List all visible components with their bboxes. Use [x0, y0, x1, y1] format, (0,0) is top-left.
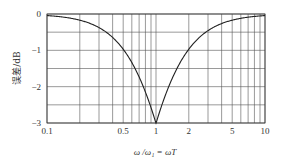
x-tick-label: 2	[187, 126, 192, 136]
x-tick-label: 5	[230, 126, 235, 136]
error-chart: 0−1−2−3 0.10.512510 误差/dB ω /ω₁ = ωT	[0, 0, 281, 160]
y-axis-label: 误差/dB	[11, 51, 22, 85]
y-tick-label: −1	[31, 45, 41, 55]
y-tick-label: −2	[31, 82, 41, 92]
grid	[47, 14, 265, 123]
y-tick-label: 0	[37, 9, 42, 19]
x-tick-label: 10	[261, 126, 271, 136]
x-axis-label: ω /ω₁ = ωT	[134, 147, 178, 157]
x-tick-label: 0.1	[41, 126, 52, 136]
x-tick-labels: 0.10.512510	[41, 126, 270, 136]
x-tick-label: 1	[154, 126, 159, 136]
y-tick-labels: 0−1−2−3	[31, 9, 41, 128]
x-tick-label: 0.5	[118, 126, 130, 136]
y-tick-label: −3	[31, 118, 41, 128]
